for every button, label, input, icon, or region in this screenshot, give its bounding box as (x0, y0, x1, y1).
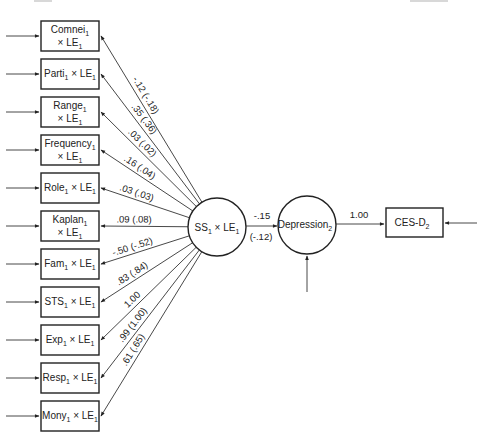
cesd-label: CES-D (394, 217, 425, 228)
loading-path-exp (101, 247, 196, 340)
path-diagram: Comnei1× LE1Parti1 × LE1Range1× LE1Frequ… (0, 0, 490, 445)
loading-value: .83 (.84) (114, 259, 150, 287)
path-alt-estimate: (-.12) (250, 231, 273, 242)
indicator-mony: Mony1 × LE1 (6, 401, 99, 431)
indicator-comnei: Comnei1× LE1 (6, 21, 99, 51)
loading-paths: -.12 (-.18).35 (.36).03 (.02).16 (.04).0… (101, 36, 202, 416)
path-estimate: -.15 (254, 210, 270, 221)
depression-label: Depression (278, 219, 329, 230)
loading-value: .09 (.08) (116, 213, 151, 224)
indicator-kaplan: Kaplan1× LE1 (6, 211, 99, 241)
page-header-fragment-right (410, 0, 448, 2)
loading-path-resp (101, 250, 199, 378)
indicator-range: Range1× LE1 (6, 97, 99, 127)
cesd-loading: 1.00 (350, 209, 369, 220)
indicator-sts: STS1 × LE1 (6, 287, 99, 317)
indicator-frequency: Frequency1× LE1 (6, 135, 99, 165)
loading-path-kaplan (101, 226, 188, 227)
indicator-role: Role1 × LE1 (6, 173, 99, 203)
observed-cesd: CES-D2 (386, 208, 443, 237)
indicator-group: Comnei1× LE1Parti1 × LE1Range1× LE1Frequ… (6, 21, 99, 431)
latent-ss-x-le: SS1 × LE1 (188, 198, 246, 256)
latent-ss-label: SS (195, 222, 209, 233)
indicator-exp: Exp1 × LE1 (6, 325, 99, 355)
indicator-parti: Parti1 × LE1 (6, 59, 99, 89)
indicator-resp: Resp1 × LE1 (6, 363, 99, 393)
page-header-fragment-left (34, 0, 52, 2)
indicator-fam: Fam1 × LE1 (6, 249, 99, 279)
loading-path-frequency (101, 150, 193, 211)
latent-depression: Depression2 (278, 196, 336, 254)
